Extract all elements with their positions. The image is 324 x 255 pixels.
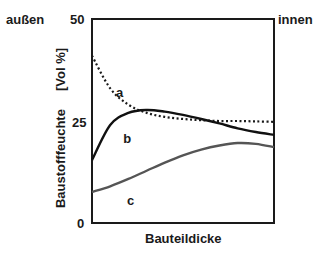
- curve-b: [92, 110, 274, 160]
- curve-label-b: b: [123, 131, 131, 146]
- plot-area: abc: [0, 0, 324, 255]
- curve-c: [92, 143, 274, 192]
- plot-frame: [92, 19, 274, 223]
- curve-label-a: a: [116, 85, 124, 100]
- curve-label-c: c: [127, 193, 134, 208]
